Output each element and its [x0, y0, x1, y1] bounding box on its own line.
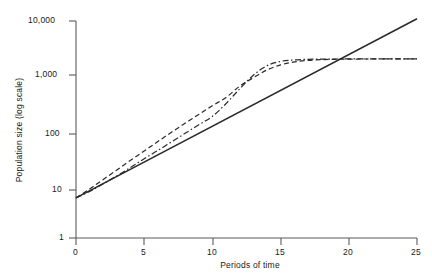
series-exponential-growth — [76, 19, 417, 198]
x-ticklabel-5: 5 — [141, 247, 146, 257]
series-logistic-growth-dash-dot — [76, 59, 417, 198]
y-ticklabel-10: 10 — [52, 184, 62, 194]
y-axis-ticks — [69, 21, 76, 238]
y-axis-title: Population size (log scale) — [14, 78, 24, 183]
data-series-layer — [76, 19, 417, 198]
x-ticklabel-0: 0 — [73, 247, 78, 257]
x-ticklabel-15: 15 — [275, 247, 285, 257]
population-growth-chart: Population size (log scale) Periods of t… — [0, 0, 432, 278]
y-ticklabel-10000: 10,000 — [28, 15, 55, 25]
chart-canvas: Population size (log scale) Periods of t… — [0, 0, 432, 278]
y-ticklabel-1000: 1,000 — [35, 69, 57, 79]
y-ticklabel-1: 1 — [59, 232, 64, 242]
x-ticklabel-10: 10 — [207, 247, 217, 257]
y-ticklabel-100: 100 — [45, 128, 60, 138]
series-logistic-growth-dashed — [76, 59, 417, 198]
x-ticklabel-25: 25 — [411, 247, 421, 257]
x-axis-title: Periods of time — [220, 260, 280, 270]
x-ticklabel-20: 20 — [343, 247, 353, 257]
x-axis-ticks — [76, 238, 417, 245]
